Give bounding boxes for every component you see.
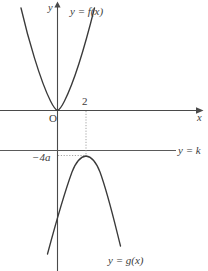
line-label-y-equals-k: y = k (178, 145, 201, 156)
curve-label-f-of-x: y = f(x) (70, 6, 103, 17)
origin-label: O (49, 113, 57, 124)
curve-g-of-x (48, 156, 121, 254)
curve-label-g-of-x: y = g(x) (108, 255, 144, 266)
y-axis-label: y (48, 3, 53, 14)
x-axis-label: x (197, 113, 202, 124)
x-tick-label-2: 2 (82, 96, 88, 107)
math-figure: y x O 2 −4a y = f(x) y = g(x) y = k (0, 0, 208, 271)
y-axis-arrowhead (54, 2, 60, 8)
y-value-label-minus-4a: −4a (32, 152, 50, 163)
figure-canvas (0, 0, 208, 271)
